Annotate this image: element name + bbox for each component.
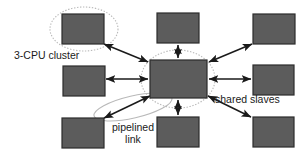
label-pipelined-link-line2: link [125,133,142,145]
link-center-bottom-left [104,96,150,118]
link-center-top-left [104,44,148,62]
link-center-top-right [209,44,252,62]
node-top-right[interactable] [253,14,295,44]
node-bottom-left[interactable] [62,118,104,148]
node-bottom-right[interactable] [253,117,294,147]
label-3-cpu-cluster: 3-CPU cluster [14,49,80,61]
node-center[interactable] [150,60,207,98]
topology-diagram: 3-CPU cluster shared slaves pipelined li… [0,0,304,153]
node-top-middle[interactable] [157,13,199,43]
label-shared-slaves: shared slaves [215,93,280,105]
node-bottom-middle[interactable] [157,117,199,147]
node-middle-right[interactable] [253,65,294,95]
node-middle-left[interactable] [63,66,105,96]
label-pipelined-link-line1: pipelined [112,121,154,133]
diagram-canvas: 3-CPU cluster shared slaves pipelined li… [0,0,304,153]
node-boxes [62,13,295,148]
node-top-left[interactable] [62,14,104,44]
